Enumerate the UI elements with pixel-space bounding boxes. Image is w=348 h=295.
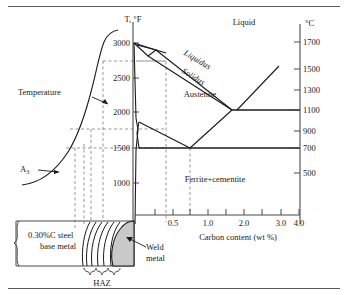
right-tick-label-900: 900 [303, 126, 316, 136]
temperature-profile-curve [22, 30, 118, 185]
left-axis-title: T, °F [125, 14, 142, 24]
haz-label: HAZ [93, 278, 110, 288]
a3-arrowhead [54, 170, 60, 174]
right-tick-label-1300: 1300 [303, 85, 320, 95]
x-tick-label-4-0: 4.0 [294, 218, 305, 228]
phase-diagram-svg: T, °F 3000 2500 2000 1500 1000 [0, 0, 348, 295]
right-tick-label-700: 700 [303, 143, 316, 153]
x-tick-label-0-5: 0.5 [168, 218, 179, 228]
base-metal-label-line1: 0.30%C steel [28, 230, 74, 240]
right-axis-title: °C [305, 18, 314, 28]
region-label-liquid: Liquid [233, 17, 256, 27]
right-temperature-axis [294, 24, 300, 224]
left-tick-label-2500: 2500 [113, 73, 130, 83]
x-axis-title: Carbon content (wt %) [199, 232, 277, 242]
carbon-content-axis [135, 209, 300, 215]
weld-metal-region [112, 221, 134, 266]
phase-boundary-lines [134, 43, 300, 224]
region-label-solidus: Solidus [180, 66, 207, 88]
x-tick-label-2-0: 2.0 [239, 218, 250, 228]
right-tick-label-1500: 1500 [303, 64, 320, 74]
base-metal-label-line2: base metal [40, 241, 77, 251]
right-tick-label-500: 500 [303, 168, 316, 178]
haz-brace [84, 268, 120, 275]
left-tick-label-2000: 2000 [113, 107, 130, 117]
weld-metal-label-line1: Weld [146, 242, 164, 252]
left-tick-label-1500: 1500 [113, 143, 130, 153]
left-tick-label-1000: 1000 [113, 178, 130, 188]
figure-container: T, °F 3000 2500 2000 1500 1000 [0, 0, 348, 295]
region-label-ferrite-cementite: Ferrite+cementite [185, 174, 246, 184]
x-tick-label-3-0: 3.0 [276, 218, 287, 228]
weld-metal-label-line2: metal [146, 253, 166, 263]
x-tick-label-1-0: 1.0 [203, 218, 214, 228]
left-tick-label-3000: 3000 [113, 38, 130, 48]
annotation-a3: A3 [20, 164, 29, 175]
region-label-austenite: Austenite [184, 89, 217, 99]
right-tick-label-1100: 1100 [303, 105, 320, 115]
right-tick-label-1700: 1700 [303, 37, 320, 47]
annotation-temperature: Temperature [18, 87, 61, 97]
